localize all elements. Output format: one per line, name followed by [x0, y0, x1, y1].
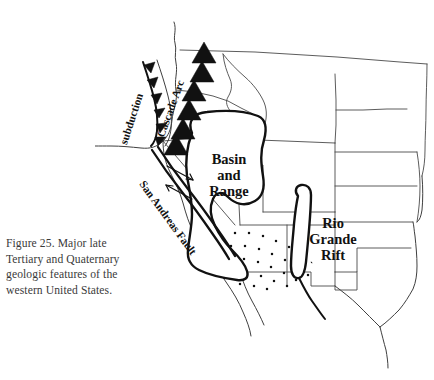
- border-canada: [180, 50, 427, 64]
- border-tx-panhandle: [335, 272, 357, 290]
- label-basin-and-range-line2: and: [217, 167, 240, 183]
- coastline-texas-gulf: [380, 222, 417, 327]
- label-rio-grande-rift-line2: Grande: [309, 231, 357, 247]
- border-mt-nd: [335, 74, 336, 143]
- rio-grande-rift-tail: [299, 278, 325, 319]
- volcano-triangle: [190, 61, 214, 82]
- western-us-map: subduction Cascade Arc San Andreas Fault…: [95, 0, 434, 380]
- border-nm-tx: [335, 248, 411, 272]
- volcano-triangle: [192, 42, 216, 63]
- border-mexico-az-nm: [240, 272, 335, 286]
- border-mt-wy: [258, 140, 335, 143]
- label-rio-grande-rift-line3: Rift: [321, 247, 345, 263]
- border-east-dakotas: [422, 64, 427, 176]
- border-rio-grande-texas: [335, 286, 380, 327]
- rio-grande-rift-outline: [291, 185, 311, 278]
- border-nd-sd: [336, 109, 407, 110]
- coastline-texas-south: [380, 327, 388, 368]
- border-east-nebraska: [417, 152, 420, 222]
- label-basin-and-range-line3: Range: [209, 183, 249, 199]
- label-basin-and-range-line1: Basin: [212, 151, 247, 167]
- figure-25: Figure 25. Major late Tertiary and Quate…: [0, 0, 434, 380]
- volcano-triangle: [177, 99, 201, 120]
- label-rio-grande-rift-line1: Rio: [322, 215, 344, 231]
- label-subduction: subduction: [117, 91, 145, 146]
